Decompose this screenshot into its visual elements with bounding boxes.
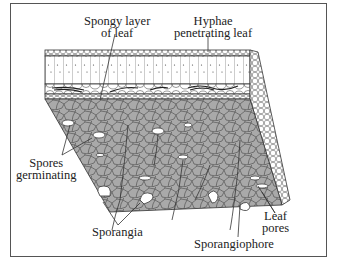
label-leaf-pores: Leaf pores [262,210,289,234]
leaf-underside [45,99,282,212]
label-sporangiophore: Sporangiophore [194,238,274,250]
label-hyphae: Hyphae penetrating leaf [174,15,252,39]
label-sporangia: Sporangia [92,226,143,238]
upper-epidermis [45,50,250,56]
lower-epidermis [45,94,250,99]
label-spores-germinating: Spores germinating [16,157,76,181]
palisade-layer [45,56,250,84]
label-spongy-layer: Spongy layer of leaf [84,15,150,39]
